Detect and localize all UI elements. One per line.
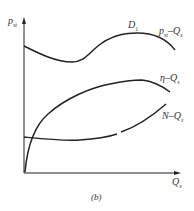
x-axis-label: Qs bbox=[172, 177, 182, 189]
curve-label-pst-qs: pst–Qs bbox=[159, 26, 183, 38]
figure-caption: (b) bbox=[91, 193, 102, 202]
y-axis-arrow-icon bbox=[22, 17, 26, 24]
y-axis-label: pst bbox=[8, 16, 17, 28]
x-axis-arrow-icon bbox=[174, 171, 181, 175]
curve-n-qs bbox=[24, 134, 117, 140]
curve-label-eta-qs: η–Qs bbox=[160, 73, 180, 85]
curve-n-qs-continued bbox=[121, 104, 166, 132]
curve-eta-qs bbox=[25, 80, 170, 172]
curve-label-n-qs: N–Qs bbox=[162, 111, 183, 123]
point-label-d1: D1 bbox=[128, 20, 138, 32]
curve-pst-qs bbox=[24, 33, 175, 62]
